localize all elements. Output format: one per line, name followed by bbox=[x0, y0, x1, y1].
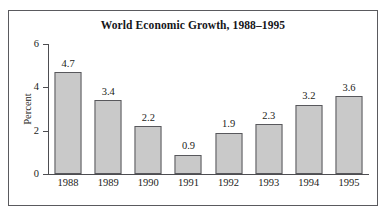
bar-group[interactable]: 2.31993 bbox=[249, 44, 289, 174]
y-tick-mark bbox=[43, 174, 48, 175]
x-tick-label: 1990 bbox=[138, 178, 159, 189]
bar-group[interactable]: 4.71988 bbox=[48, 44, 88, 174]
bar-value-label: 4.7 bbox=[62, 59, 75, 70]
bar-series: 4.719883.419892.219900.919911.919922.319… bbox=[48, 44, 369, 174]
bar[interactable] bbox=[215, 133, 242, 174]
bar[interactable] bbox=[55, 72, 82, 174]
x-tick-label: 1989 bbox=[98, 178, 119, 189]
x-tick-label: 1992 bbox=[218, 178, 239, 189]
x-tick-label: 1995 bbox=[338, 178, 359, 189]
chart-title: World Economic Growth, 1988–1995 bbox=[9, 19, 377, 31]
plot-area: Percent 0246 4.719883.419892.219900.9199… bbox=[48, 44, 369, 174]
x-axis-line bbox=[48, 174, 369, 175]
bar-value-label: 2.2 bbox=[142, 113, 155, 124]
bar-group[interactable]: 3.61995 bbox=[329, 44, 369, 174]
bar-value-label: 3.6 bbox=[342, 83, 355, 94]
bar-value-label: 3.2 bbox=[302, 91, 315, 102]
y-tick-label: 0 bbox=[34, 169, 39, 180]
x-tick-label: 1993 bbox=[258, 178, 279, 189]
bar-value-label: 3.4 bbox=[102, 87, 115, 98]
y-tick-label: 2 bbox=[34, 125, 39, 136]
bar-group[interactable]: 3.21994 bbox=[289, 44, 329, 174]
bar[interactable] bbox=[95, 100, 122, 174]
x-tick-label: 1994 bbox=[298, 178, 319, 189]
bar-value-label: 1.9 bbox=[222, 119, 235, 130]
bar[interactable] bbox=[135, 126, 162, 174]
bar-group[interactable]: 3.41989 bbox=[88, 44, 128, 174]
bar-value-label: 0.9 bbox=[182, 141, 195, 152]
bar[interactable] bbox=[295, 105, 322, 174]
x-tick-label: 1991 bbox=[178, 178, 199, 189]
bar-group[interactable]: 0.91991 bbox=[168, 44, 208, 174]
y-tick-label: 6 bbox=[34, 39, 39, 50]
bar-group[interactable]: 1.91992 bbox=[209, 44, 249, 174]
bar[interactable] bbox=[175, 155, 202, 175]
bar[interactable] bbox=[255, 124, 282, 174]
x-tick-label: 1988 bbox=[58, 178, 79, 189]
y-tick-label: 4 bbox=[34, 82, 39, 93]
bar[interactable] bbox=[335, 96, 362, 174]
chart-figure-frame: World Economic Growth, 1988–1995 Percent… bbox=[8, 10, 378, 206]
bar-group[interactable]: 2.21990 bbox=[128, 44, 168, 174]
y-axis-title: Percent bbox=[22, 93, 33, 125]
bar-value-label: 2.3 bbox=[262, 111, 275, 122]
